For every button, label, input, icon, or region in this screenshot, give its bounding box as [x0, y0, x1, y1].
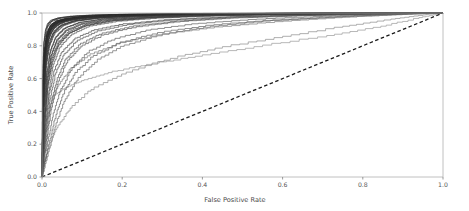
y-tick-label: 0.8 — [27, 42, 37, 49]
roc-figure: 0.00.20.40.60.81.0 0.00.20.40.60.81.0 Fa… — [0, 0, 469, 211]
x-tick-label: 1.0 — [438, 181, 448, 188]
y-tick-label: 0.4 — [27, 108, 37, 115]
y-axis-label: True Positive Rate — [7, 66, 15, 126]
y-tick-label: 0.6 — [27, 75, 37, 82]
x-tick-label: 0.0 — [37, 181, 47, 188]
y-tick-label: 1.0 — [27, 9, 37, 16]
x-axis-label: False Positive Rate — [204, 196, 265, 204]
y-tick-label: 0.0 — [27, 173, 37, 180]
x-tick-label: 0.8 — [358, 181, 368, 188]
y-tick-label: 0.2 — [27, 140, 37, 147]
x-tick-label: 0.4 — [197, 181, 207, 188]
x-tick-label: 0.6 — [278, 181, 288, 188]
x-tick-label: 0.2 — [117, 181, 127, 188]
roc-plot-svg: 0.00.20.40.60.81.0 0.00.20.40.60.81.0 Fa… — [0, 0, 469, 211]
